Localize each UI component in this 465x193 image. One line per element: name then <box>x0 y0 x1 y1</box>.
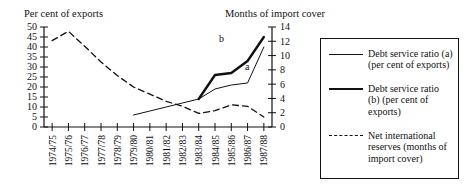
left-tick-label: 50 <box>27 21 37 32</box>
right-tick-label: 6 <box>280 79 285 90</box>
right-tick-label: 4 <box>280 93 285 104</box>
right-axis-ticks: 02468101214 <box>268 21 290 132</box>
chart-legend: Debt service ratio (a) (per cent of expo… <box>320 38 459 179</box>
left-tick-label: 5 <box>32 111 37 122</box>
left-tick-label: 40 <box>27 41 37 52</box>
legend-label: Net international reserves (months of im… <box>368 130 447 164</box>
line-dashed-icon <box>329 130 363 142</box>
left-tick-label: 10 <box>27 101 37 112</box>
left-tick-label: 0 <box>32 121 37 132</box>
x-tick-label: 1985/86 <box>227 135 237 166</box>
x-tick-label: 1984/85 <box>211 135 221 166</box>
x-tick-label: 1980/81 <box>145 135 155 166</box>
series-layer <box>52 31 264 117</box>
x-tick-label: 1978/79 <box>113 135 123 166</box>
left-tick-label: 30 <box>27 61 37 72</box>
right-tick-label: 8 <box>280 64 285 75</box>
chart-figure: Per cent of exports Months of import cov… <box>0 0 465 193</box>
x-tick-label: 1981/82 <box>162 135 172 166</box>
left-axis-ticks: 05101520253035404550 <box>27 21 48 132</box>
x-tick-label: 1987/88 <box>259 135 269 166</box>
line-thick-icon <box>329 83 363 95</box>
left-tick-label: 35 <box>27 51 37 62</box>
x-tick-label: 1974/75 <box>48 135 58 166</box>
right-tick-label: 14 <box>280 21 290 32</box>
x-tick-label: 1977/78 <box>97 135 107 166</box>
legend-item-0: Debt service ratio (a) (per cent of expo… <box>329 48 453 71</box>
legend-item-1: Debt service ratio (b) (per cent of expo… <box>329 83 439 117</box>
left-tick-label: 45 <box>27 31 37 42</box>
x-tick-label: 1982/83 <box>178 135 188 166</box>
x-tick-label: 1976/77 <box>80 135 90 166</box>
legend-label: Debt service ratio (a) (per cent of expo… <box>368 48 453 71</box>
series-line-2 <box>52 31 264 117</box>
x-tick-label: 1975/76 <box>64 135 74 166</box>
series-line-0 <box>134 47 264 115</box>
legend-item-2: Net international reserves (months of im… <box>329 130 447 164</box>
x-axis-ticks: 1974/751975/761976/771977/781978/791979/… <box>48 123 270 166</box>
annotation-a: a <box>245 61 250 72</box>
right-tick-label: 12 <box>280 36 290 47</box>
left-tick-label: 15 <box>27 91 37 102</box>
right-tick-label: 2 <box>280 107 285 118</box>
x-tick-label: 1983/84 <box>194 135 204 166</box>
x-tick-label: 1979/80 <box>129 135 139 166</box>
line-thin-icon <box>329 48 363 60</box>
left-tick-label: 20 <box>27 81 37 92</box>
annotation-b: b <box>219 33 224 44</box>
x-tick-label: 1986/87 <box>243 135 253 166</box>
legend-label: Debt service ratio (b) (per cent of expo… <box>368 83 439 117</box>
right-tick-label: 10 <box>280 50 290 61</box>
right-tick-label: 0 <box>280 121 285 132</box>
left-tick-label: 25 <box>27 71 37 82</box>
